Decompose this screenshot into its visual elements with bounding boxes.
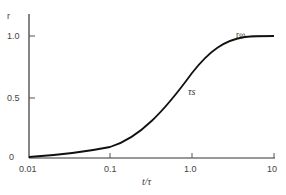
y-tick-label-0: 0: [9, 152, 14, 162]
x-tick-label-1: 1.0: [184, 164, 197, 174]
chart: r 1.0 0.5 0 0.01 0.1 1.0 10 t/τ r∞ τs: [0, 0, 286, 195]
curve-label: τs: [188, 86, 196, 97]
y-axis-label: r: [7, 11, 10, 21]
x-tick-label-001: 0.01: [19, 164, 37, 174]
x-tick-label-10: 10: [267, 164, 277, 174]
x-axis-label: t/τ: [142, 176, 152, 187]
x-tick-label-01: 0.1: [104, 164, 117, 174]
y-tick-label-1: 1.0: [7, 31, 20, 41]
y-tick-label-05: 0.5: [7, 93, 20, 103]
data-curve: [29, 36, 274, 157]
